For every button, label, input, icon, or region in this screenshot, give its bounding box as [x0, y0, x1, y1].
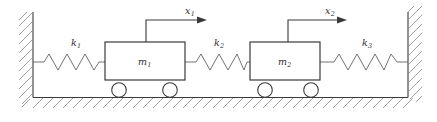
- spring-2: [185, 54, 250, 70]
- mass-1-label: m1: [138, 57, 151, 67]
- right-wall: [408, 6, 422, 102]
- mass-spring-diagram: k1 k2 k3 m1 m2 x1 x2: [0, 0, 437, 122]
- right-wall-hatching: [408, 6, 422, 102]
- ground-surface: [33, 98, 413, 109]
- spring-1: [33, 54, 105, 70]
- wheel-2: [163, 83, 178, 98]
- diagram-canvas: [0, 0, 437, 122]
- spring-3-label: k3: [362, 38, 372, 48]
- displacement-arrow-2: [288, 17, 347, 42]
- spring-2-label: k2: [214, 38, 224, 48]
- spring-1-label: k1: [71, 38, 81, 48]
- displacement-2-label: x2: [325, 6, 334, 16]
- wheel-1: [112, 83, 127, 98]
- ground-hatching: [33, 98, 413, 108]
- left-wall: [19, 12, 33, 107]
- mass-2-label: m2: [278, 57, 291, 67]
- spring-3: [320, 54, 408, 70]
- displacement-arrow-1: [146, 17, 207, 42]
- wheel-3: [258, 83, 273, 98]
- wheel-4: [304, 83, 319, 98]
- left-wall-hatching: [19, 12, 33, 107]
- displacement-1-label: x1: [185, 6, 194, 16]
